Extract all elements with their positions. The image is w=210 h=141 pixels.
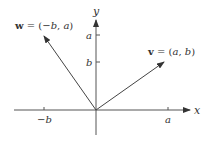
- x-axis-label: x: [194, 104, 201, 117]
- y-axis: y: [92, 5, 100, 135]
- vector-diagram: x y −b a a b w = (−b, a) v = (a, b): [0, 0, 210, 141]
- vector-v-label: v = (a, b): [147, 46, 195, 57]
- y-axis-label: y: [92, 5, 100, 18]
- x-tick-label-neg-b: −b: [37, 114, 52, 125]
- x-tick-label-a: a: [165, 114, 171, 125]
- y-tick-label-a: a: [86, 30, 92, 41]
- vector-w: w = (−b, a): [14, 20, 96, 110]
- y-tick-a: a: [86, 30, 100, 41]
- vector-w-label: w = (−b, a): [14, 20, 73, 31]
- y-tick-label-b: b: [86, 57, 92, 68]
- y-tick-b: b: [86, 57, 100, 68]
- vector-v: v = (a, b): [96, 46, 195, 110]
